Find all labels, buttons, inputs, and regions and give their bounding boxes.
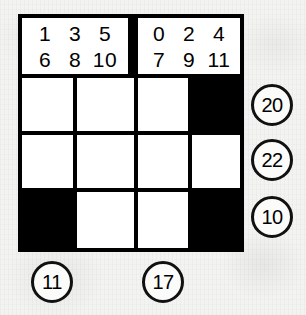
header-left-top-1: 3 bbox=[60, 23, 90, 44]
header-left-top-0: 1 bbox=[30, 23, 60, 44]
header-right-top-0: 0 bbox=[144, 23, 174, 44]
column-clue-1: 17 bbox=[142, 261, 184, 303]
grid-cell-empty[interactable] bbox=[77, 135, 134, 188]
grid-cell-empty[interactable] bbox=[138, 135, 188, 188]
header-right-bottom-1: 9 bbox=[174, 49, 204, 70]
header-left-top-row: 1 3 5 bbox=[30, 23, 120, 44]
header-right-top-row: 0 2 4 bbox=[144, 23, 234, 44]
grid-cell-block bbox=[22, 192, 73, 248]
grid-cell-empty[interactable] bbox=[138, 78, 188, 131]
column-clue-0: 11 bbox=[31, 261, 73, 303]
header-left-bottom-1: 8 bbox=[60, 49, 90, 70]
grid-cell-block bbox=[192, 192, 240, 248]
grid-cell-block bbox=[192, 78, 240, 131]
grid-cell-empty[interactable] bbox=[138, 192, 188, 248]
header-clue-left: 1 3 5 6 8 10 bbox=[22, 18, 128, 74]
header-right-top-1: 2 bbox=[174, 23, 204, 44]
grid-cell-empty[interactable] bbox=[22, 135, 73, 188]
header-right-bottom-row: 7 9 11 bbox=[144, 49, 234, 70]
header-left-bottom-row: 6 8 10 bbox=[30, 49, 120, 70]
grid-cell-empty[interactable] bbox=[77, 78, 134, 131]
grid-cell-empty[interactable] bbox=[22, 78, 73, 131]
header-right-bottom-0: 7 bbox=[144, 49, 174, 70]
puzzle-grid: 1 3 5 6 8 10 0 2 4 7 9 11 bbox=[18, 14, 244, 252]
header-left-bottom-0: 6 bbox=[30, 49, 60, 70]
grid-cell-empty[interactable] bbox=[192, 135, 240, 188]
header-left-top-2: 5 bbox=[90, 23, 120, 44]
row-clue-0: 20 bbox=[251, 84, 293, 126]
grid-cell-empty[interactable] bbox=[77, 192, 134, 248]
header-left-bottom-2: 10 bbox=[90, 49, 120, 70]
header-clue-right: 0 2 4 7 9 11 bbox=[138, 18, 240, 74]
header-right-bottom-2: 11 bbox=[204, 49, 234, 70]
header-right-top-2: 4 bbox=[204, 23, 234, 44]
row-clue-2: 10 bbox=[251, 196, 293, 238]
puzzle-diagram: 1 3 5 6 8 10 0 2 4 7 9 11 20 22 bbox=[0, 0, 306, 315]
row-clue-1: 22 bbox=[251, 139, 293, 181]
